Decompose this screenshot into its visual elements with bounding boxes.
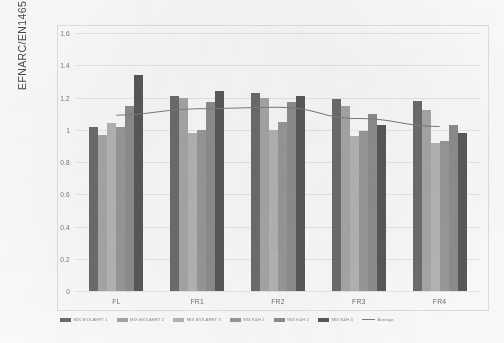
bar (260, 98, 269, 292)
bar-group: FL (76, 33, 157, 291)
bar (215, 91, 224, 291)
y-axis-tick-label: 1.4 (60, 62, 70, 69)
y-axis-title: EFNARC/EN14651 (16, 0, 28, 90)
bar (188, 133, 197, 291)
legend-item[interactable]: MIX K&H 2 (274, 317, 309, 322)
bar (98, 135, 107, 291)
y-axis-tick-label: 0.2 (60, 255, 70, 262)
legend-item-label: MIX BIOLAERT 3 (187, 317, 221, 322)
bar (170, 96, 179, 291)
legend-item-label: MIX K&H 2 (287, 317, 309, 322)
bar (179, 98, 188, 292)
plot-area: 00.20.40.60.811.21.41.6 FLFR1FR2FR3FR4 (76, 33, 480, 291)
x-axis-tick-label: FR4 (399, 298, 480, 305)
y-axis-tick-label: 0.6 (60, 191, 70, 198)
bar (197, 130, 206, 291)
legend-item-label: MIX K&H 3 (331, 317, 353, 322)
bar (359, 131, 368, 291)
legend-color-swatch (173, 318, 184, 322)
x-axis-tick-label: FR2 (238, 298, 319, 305)
legend-color-swatch (230, 318, 241, 322)
x-axis-tick-label: FR3 (318, 298, 399, 305)
legend-item[interactable]: MIX K&H 1 (230, 317, 265, 322)
x-axis-tick-label: FR1 (157, 298, 238, 305)
bar (251, 93, 260, 291)
legend-item[interactable]: MIX BIOLAERT 3 (173, 317, 221, 322)
x-axis-tick-label: FL (76, 298, 157, 305)
legend-item[interactable]: MIX K&H 3 (318, 317, 353, 322)
bar (350, 136, 359, 291)
y-axis-tick-label: 0.8 (60, 159, 70, 166)
bar-group: FR4 (399, 33, 480, 291)
bar (125, 106, 134, 291)
bar (341, 106, 350, 291)
legend-color-swatch (60, 318, 71, 322)
bar (206, 102, 215, 291)
bar (377, 125, 386, 291)
bar (134, 75, 143, 291)
bar (458, 133, 467, 291)
legend-item-label: MIX K&H 1 (243, 317, 265, 322)
legend-item-label: MIX BIOLAERT 1 (74, 317, 108, 322)
legend-color-swatch (117, 318, 128, 322)
y-axis-tick-label: 0.4 (60, 223, 70, 230)
bar (287, 102, 296, 291)
legend-item[interactable]: MIX BIOLAERT 1 (60, 317, 108, 322)
bar (116, 127, 125, 291)
legend-color-swatch (274, 318, 285, 322)
legend-item-label: MIX BIOLAERT 2 (130, 317, 164, 322)
bar (269, 130, 278, 291)
bar (296, 96, 305, 291)
y-axis-tick-label: 0 (66, 288, 70, 295)
bar (368, 114, 377, 291)
bar (89, 127, 98, 291)
legend-item[interactable]: MIX BIOLAERT 2 (117, 317, 165, 322)
chart-legend: MIX BIOLAERT 1MIX BIOLAERT 2MIX BIOLAERT… (60, 317, 480, 322)
gridline (76, 291, 480, 292)
y-axis-tick-label: 1.6 (60, 30, 70, 37)
y-axis-tick-label: 1 (66, 126, 70, 133)
legend-item-label: Average (378, 317, 394, 322)
bar (422, 110, 431, 291)
bar (107, 123, 116, 291)
bar (440, 141, 449, 291)
legend-item[interactable]: Average (362, 317, 394, 322)
bar (278, 122, 287, 291)
bar (413, 101, 422, 291)
bar (449, 125, 458, 291)
bar-group: FR2 (238, 33, 319, 291)
legend-line-marker (362, 319, 375, 320)
bar-groups: FLFR1FR2FR3FR4 (76, 33, 480, 291)
bar (332, 99, 341, 291)
y-axis-tick-label: 1.2 (60, 94, 70, 101)
bar (431, 143, 440, 291)
bar-group: FR1 (157, 33, 238, 291)
legend-color-swatch (318, 318, 329, 322)
bar-group: FR3 (318, 33, 399, 291)
